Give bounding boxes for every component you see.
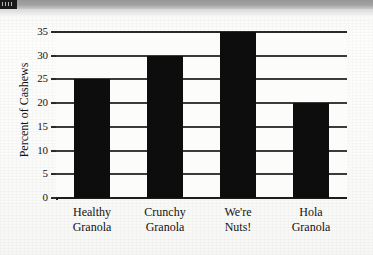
x-axis-label-line: Granola bbox=[126, 220, 204, 235]
y-axis-tick bbox=[51, 150, 56, 152]
scanned-chart-page: Percent of Cashews 05101520253035 Health… bbox=[0, 0, 373, 255]
y-axis-tick-label: 15 bbox=[26, 121, 48, 132]
x-axis-label-line: Hola bbox=[272, 205, 350, 220]
y-axis-tick bbox=[51, 31, 56, 33]
x-axis-label-line: Nuts! bbox=[199, 220, 277, 235]
plot-area bbox=[56, 32, 347, 198]
y-axis-tick bbox=[51, 55, 56, 57]
y-axis-tick-label: 30 bbox=[26, 50, 48, 61]
x-axis-label-line: Crunchy bbox=[126, 205, 204, 220]
x-axis-label-line: Healthy bbox=[53, 205, 131, 220]
x-axis-label-line: Granola bbox=[272, 220, 350, 235]
x-axis-category-label: We'reNuts! bbox=[199, 205, 277, 235]
gridline bbox=[56, 31, 347, 33]
x-axis-label-line: Granola bbox=[53, 220, 131, 235]
y-axis-tick-labels: 05101520253035 bbox=[26, 0, 48, 255]
x-axis-label-line: We're bbox=[199, 205, 277, 220]
gridline bbox=[56, 55, 347, 57]
y-axis-tick bbox=[51, 102, 56, 104]
bar bbox=[147, 56, 183, 198]
x-axis-category-labels: HealthyGranolaCrunchyGranolaWe'reNuts!Ho… bbox=[56, 205, 347, 247]
y-axis-tick bbox=[51, 126, 56, 128]
y-axis-tick-label: 35 bbox=[26, 26, 48, 37]
y-axis-tick bbox=[51, 173, 56, 175]
y-axis-tick bbox=[51, 78, 56, 80]
bar bbox=[293, 103, 329, 198]
bar bbox=[220, 32, 256, 198]
x-axis-category-label: CrunchyGranola bbox=[126, 205, 204, 235]
y-axis-tick-label: 0 bbox=[26, 192, 48, 203]
y-axis-tick-label: 25 bbox=[26, 73, 48, 84]
bar bbox=[74, 79, 110, 198]
y-axis-tick-label: 10 bbox=[26, 145, 48, 156]
y-axis-tick-label: 20 bbox=[26, 97, 48, 108]
x-axis-category-label: HealthyGranola bbox=[53, 205, 131, 235]
y-axis-tick-label: 5 bbox=[26, 168, 48, 179]
x-axis-category-label: HolaGranola bbox=[272, 205, 350, 235]
y-axis-tick bbox=[51, 197, 56, 199]
